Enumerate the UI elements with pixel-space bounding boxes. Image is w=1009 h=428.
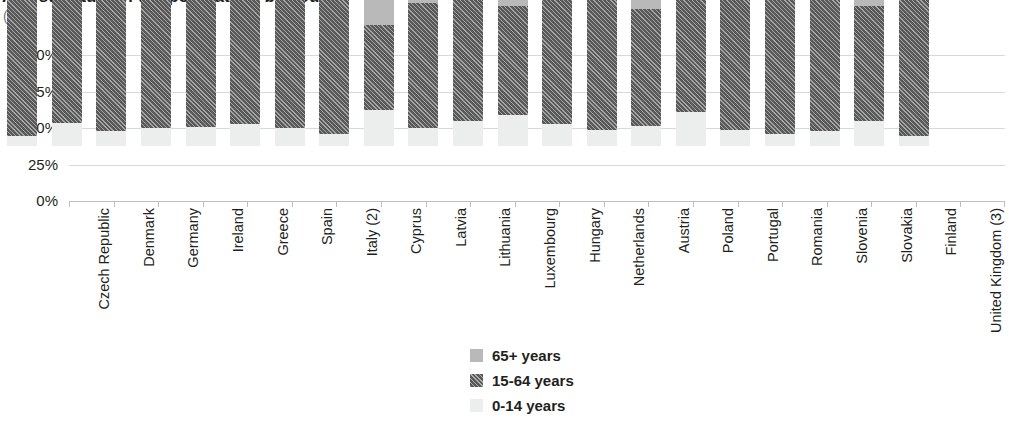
bar-germany[interactable] xyxy=(96,0,126,146)
x-label-hungary: Hungary xyxy=(588,208,602,263)
segment-0-14 xyxy=(631,126,661,146)
x-tick xyxy=(203,201,204,207)
bar-lithuania[interactable] xyxy=(408,0,438,146)
x-label-portugal: Portugal xyxy=(766,208,780,262)
bar-united-kingdom-3[interactable] xyxy=(899,0,929,146)
legend-swatch-icon xyxy=(470,374,483,387)
legend-item-15-64-years[interactable]: 15-64 years xyxy=(470,368,730,393)
bar-hungary[interactable] xyxy=(498,0,528,146)
x-tick xyxy=(1004,201,1005,207)
bar-slovakia[interactable] xyxy=(810,0,840,146)
x-label-latvia: Latvia xyxy=(454,208,468,247)
segment-0-14 xyxy=(498,115,528,146)
segment-0-14 xyxy=(542,124,572,146)
bar-italy-2[interactable] xyxy=(275,0,305,146)
segment-0-14 xyxy=(854,121,884,146)
y-tick-label-0: 0% xyxy=(36,193,58,208)
segment-65-plus xyxy=(364,0,394,25)
segment-0-14 xyxy=(899,136,929,146)
x-axis-category-labels: Czech RepublicDenmarkGermanyIrelandGreec… xyxy=(69,208,1005,358)
bar-poland[interactable] xyxy=(631,0,661,146)
x-label-denmark: Denmark xyxy=(142,208,156,267)
bar-luxembourg[interactable] xyxy=(453,0,483,146)
bar-latvia[interactable] xyxy=(364,0,394,146)
segment-15-64 xyxy=(275,0,305,128)
segment-0-14 xyxy=(141,128,171,146)
segment-15-64 xyxy=(542,0,572,124)
x-label-italy-2: Italy (2) xyxy=(365,208,379,256)
x-label-finland: Finland xyxy=(944,208,958,256)
segment-0-14 xyxy=(275,128,305,146)
legend-label: 0-14 years xyxy=(492,398,565,413)
segment-15-64 xyxy=(810,0,840,131)
segment-15-64 xyxy=(676,0,706,112)
x-tick xyxy=(871,201,872,207)
x-tick xyxy=(336,201,337,207)
segment-15-64 xyxy=(899,0,929,136)
segment-15-64 xyxy=(364,25,394,110)
x-tick xyxy=(738,201,739,207)
x-tick xyxy=(693,201,694,207)
x-tick xyxy=(960,201,961,207)
bar-netherlands[interactable] xyxy=(542,0,572,146)
bar-ireland[interactable] xyxy=(141,0,171,146)
x-label-poland: Poland xyxy=(721,208,735,253)
bar-romania[interactable] xyxy=(720,0,750,146)
x-tick xyxy=(827,201,828,207)
segment-0-14 xyxy=(810,131,840,146)
x-label-netherlands: Netherlands xyxy=(632,208,646,286)
x-label-slovakia: Slovakia xyxy=(900,208,914,263)
bar-denmark[interactable] xyxy=(52,0,82,146)
x-label-spain: Spain xyxy=(320,208,334,245)
segment-15-64 xyxy=(319,0,349,134)
x-tick xyxy=(782,201,783,207)
legend-item-65-years[interactable]: 65+ years xyxy=(470,343,730,368)
segment-15-64 xyxy=(453,0,483,121)
bar-greece[interactable] xyxy=(186,0,216,146)
bar-portugal[interactable] xyxy=(676,0,706,146)
bar-czech-republic[interactable] xyxy=(7,0,37,146)
x-label-germany: Germany xyxy=(186,208,200,268)
x-label-greece: Greece xyxy=(276,208,290,256)
legend-swatch-icon xyxy=(470,399,483,412)
chart-legend: 65+ years15-64 years0-14 years xyxy=(470,343,730,418)
segment-0-14 xyxy=(319,134,349,146)
segment-0-14 xyxy=(96,131,126,146)
x-label-united-kingdom-3: United Kingdom (3) xyxy=(989,208,1003,333)
segment-15-64 xyxy=(587,0,617,130)
segment-15-64 xyxy=(52,0,82,123)
segment-15-64 xyxy=(498,6,528,116)
x-label-romania: Romania xyxy=(810,208,824,266)
bar-slovenia[interactable] xyxy=(765,0,795,146)
x-label-slovenia: Slovenia xyxy=(855,208,869,264)
bar-cyprus[interactable] xyxy=(319,0,349,146)
bar-series-container xyxy=(0,0,936,146)
bar-spain[interactable] xyxy=(230,0,260,146)
x-tick xyxy=(158,201,159,207)
segment-0-14 xyxy=(676,112,706,146)
segment-0-14 xyxy=(765,134,795,146)
segment-15-64 xyxy=(631,9,661,126)
segment-15-64 xyxy=(230,0,260,124)
x-tick xyxy=(515,201,516,207)
legend-label: 65+ years xyxy=(492,348,561,363)
x-tick xyxy=(559,201,560,207)
x-tick xyxy=(916,201,917,207)
bar-austria[interactable] xyxy=(587,0,617,146)
segment-0-14 xyxy=(587,130,617,146)
segment-15-64 xyxy=(408,3,438,129)
x-label-luxembourg: Luxembourg xyxy=(543,208,557,289)
segment-15-64 xyxy=(720,0,750,130)
legend-item-0-14-years[interactable]: 0-14 years xyxy=(470,393,730,418)
segment-0-14 xyxy=(230,124,260,146)
legend-swatch-icon xyxy=(470,349,483,362)
segment-65-plus xyxy=(631,0,661,9)
x-tick xyxy=(292,201,293,207)
x-axis-ticks xyxy=(69,201,1005,207)
segment-0-14 xyxy=(408,128,438,146)
segment-15-64 xyxy=(96,0,126,131)
segment-0-14 xyxy=(186,127,216,146)
x-tick xyxy=(69,201,70,207)
bar-finland[interactable] xyxy=(854,0,884,146)
segment-0-14 xyxy=(52,123,82,146)
